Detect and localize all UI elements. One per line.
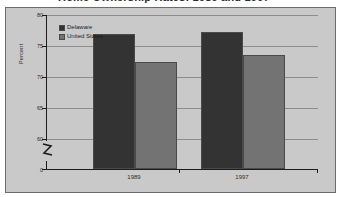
legend-swatch-icon <box>59 34 65 40</box>
axis-break-icon <box>41 142 54 160</box>
legend-label: Delaware <box>67 23 92 32</box>
legend: Delaware United States <box>57 22 105 42</box>
x-tick-label-1989: 1989 <box>127 174 140 180</box>
y-tick-label: 0 <box>40 167 43 173</box>
y-axis-upper-spine <box>46 15 47 141</box>
gridline-80 <box>46 15 318 16</box>
bar-united-states-1989 <box>135 62 177 169</box>
y-axis-title: Percent <box>18 4 24 64</box>
y-axis-tick-70 <box>42 77 46 78</box>
y-axis-tick-80 <box>42 15 46 16</box>
chart-screenshot: Home Ownership Rates: 1989 and 1997 Perc… <box>0 0 341 197</box>
chart-title-strip: Home Ownership Rates: 1989 and 1997 <box>0 0 341 7</box>
x-tick-label-1997: 1997 <box>235 174 248 180</box>
page-title: Home Ownership Rates: 1989 and 1997 <box>58 0 270 3</box>
figure-frame: Percent 80 75 70 65 60 0 <box>5 7 336 193</box>
bar-united-states-1997 <box>243 55 285 169</box>
bar-delaware-1997 <box>201 32 243 169</box>
x-axis-spine <box>46 169 318 170</box>
bar-delaware-1989 <box>93 34 135 169</box>
legend-item-delaware: Delaware <box>59 23 103 32</box>
x-axis-tick-mid <box>179 170 180 173</box>
y-axis-tick-75 <box>42 46 46 47</box>
y-axis-tick-65 <box>42 108 46 109</box>
x-axis-tick-end <box>317 170 318 173</box>
legend-item-united-states: United States <box>59 32 103 41</box>
gridline-75 <box>46 46 318 47</box>
legend-swatch-icon <box>59 25 65 31</box>
y-axis-tick-60 <box>42 139 46 140</box>
legend-label: United States <box>67 32 103 41</box>
